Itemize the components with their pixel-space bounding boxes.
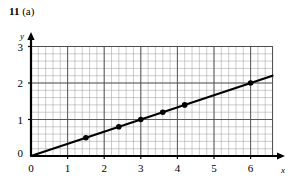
- x-tick-label: 6: [248, 162, 254, 174]
- data-point: [116, 124, 122, 130]
- figure-container: 11 (a) 01234561230xy: [0, 0, 297, 178]
- x-tick-label: 2: [101, 162, 107, 174]
- data-point: [138, 117, 144, 123]
- y-tick-label-zero: 0: [18, 147, 24, 159]
- data-point: [182, 102, 188, 108]
- x-axis-arrowhead: [277, 152, 285, 159]
- x-tick-label: 5: [211, 162, 217, 174]
- y-axis-arrowhead: [27, 32, 34, 40]
- grid-layer: [31, 47, 273, 157]
- y-tick-label: 3: [18, 41, 24, 53]
- data-point: [83, 135, 89, 141]
- y-tick-label: 1: [18, 114, 24, 126]
- data-point: [248, 80, 254, 86]
- y-tick-label: 2: [18, 77, 24, 89]
- data-point: [160, 109, 166, 115]
- x-tick-label: 3: [138, 162, 144, 174]
- x-axis-label: x: [280, 165, 285, 175]
- x-tick-label: 1: [65, 162, 71, 174]
- y-axis-label: y: [19, 31, 24, 41]
- graph-svg: 01234561230xy: [0, 0, 297, 178]
- x-tick-label: 4: [175, 162, 181, 174]
- x-tick-label: 0: [28, 162, 34, 174]
